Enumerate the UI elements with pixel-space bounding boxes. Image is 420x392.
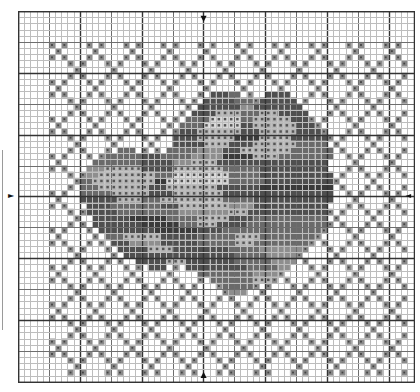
stitch-grid [18, 11, 415, 383]
center-marker-left-icon: ► [8, 192, 14, 200]
center-marker-right-icon: ◄ [405, 192, 411, 200]
page-edge-line [2, 150, 3, 330]
center-marker-bottom-icon: ▲ [200, 371, 206, 379]
cross-stitch-chart [18, 11, 415, 383]
center-marker-top-icon: ▼ [200, 15, 206, 23]
